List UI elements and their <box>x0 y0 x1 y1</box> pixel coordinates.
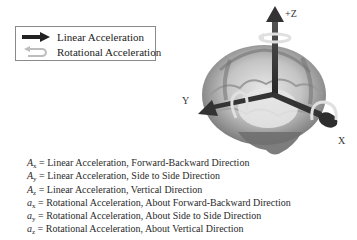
legend-label-linear: Linear Acceleration <box>57 31 144 43</box>
brain-axes-diagram: +Z Y X <box>170 0 357 160</box>
definition-symbol: Az <box>27 184 36 195</box>
definition-symbol: Ax <box>27 157 37 168</box>
rotational-arrow-icon <box>20 45 52 59</box>
definition-row: az = Rotational Acceleration, About Vert… <box>27 222 291 235</box>
linear-arrow-icon <box>20 30 52 44</box>
brain-icon <box>202 45 326 155</box>
definition-text: = Rotational Acceleration, About Forward… <box>38 197 291 208</box>
y-axis-label: Y <box>182 95 189 106</box>
legend-box: Linear Acceleration Rotational Accelerat… <box>15 26 156 61</box>
definition-row: ay = Rotational Acceleration, About Side… <box>27 209 291 222</box>
definitions-list: Ax = Linear Acceleration, Forward-Backwa… <box>27 156 291 236</box>
legend-item-linear: Linear Acceleration <box>20 30 144 44</box>
definition-symbol: az <box>27 223 35 234</box>
definition-row: Ay = Linear Acceleration, Side to Side D… <box>27 169 291 182</box>
definition-text: = Rotational Acceleration, About Vertica… <box>38 223 244 234</box>
definition-text: = Linear Acceleration, Forward-Backward … <box>39 157 249 168</box>
definition-text: = Linear Acceleration, Side to Side Dire… <box>39 170 220 181</box>
definition-row: ax = Rotational Acceleration, About Forw… <box>27 196 291 209</box>
z-axis-label: +Z <box>285 8 297 19</box>
definition-symbol: Ay <box>27 170 37 181</box>
definition-text: = Linear Acceleration, Vertical Directio… <box>39 184 202 195</box>
definition-row: Ax = Linear Acceleration, Forward-Backwa… <box>27 156 291 169</box>
definition-symbol: ax <box>27 197 36 208</box>
legend-label-rotational: Rotational Acceleration <box>57 46 161 58</box>
legend-item-rotational: Rotational Acceleration <box>20 45 161 59</box>
definition-row: Az = Linear Acceleration, Vertical Direc… <box>27 183 291 196</box>
x-axis-label: X <box>338 135 345 146</box>
brain-illustration <box>170 0 357 160</box>
definition-text: = Rotational Acceleration, About Side to… <box>38 210 261 221</box>
definition-symbol: ay <box>27 210 36 221</box>
